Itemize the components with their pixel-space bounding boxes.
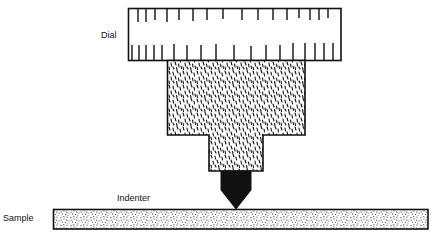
dial-label: Dial [101,31,117,40]
dial [129,9,342,61]
sample-slab [54,210,429,230]
indenter-tip [221,171,251,209]
sample-label: Sample [3,214,34,223]
indenter-label: Indenter [117,194,150,203]
diagram-drawing [0,0,444,240]
hardness-tester-diagram: Dial Indenter Sample [0,0,444,240]
tester-body [168,61,306,172]
